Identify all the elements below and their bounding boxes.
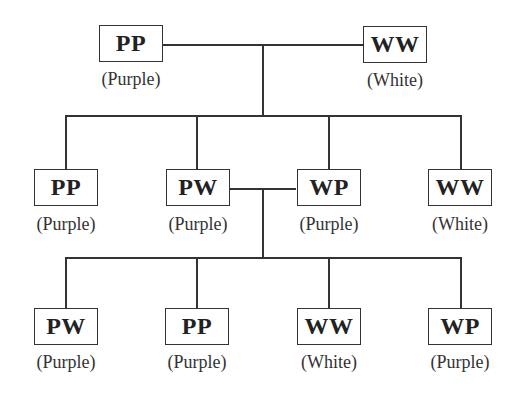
- f2-drop-4: [460, 257, 462, 309]
- f1-drop-4: [460, 115, 462, 169]
- parent-node-1: PP: [99, 25, 163, 62]
- parent-descent-line: [262, 44, 264, 115]
- parent-node-2: WW: [363, 26, 427, 63]
- f1-node-3: WP: [297, 169, 361, 206]
- f2-drop-1: [65, 257, 67, 309]
- f2-node-3: WW: [297, 308, 361, 345]
- f2-phenotype-1: (Purple): [16, 352, 116, 372]
- f1-phenotype-4: (White): [410, 214, 510, 234]
- f1-phenotype-1: (Purple): [16, 214, 116, 234]
- f1-phenotype-3: (Purple): [279, 214, 379, 234]
- f1-drop-2: [196, 115, 198, 169]
- f2-drop-3: [328, 257, 330, 309]
- parent-phenotype-2: (White): [345, 70, 445, 90]
- f2-node-2: PP: [165, 308, 229, 345]
- f1-descent-line: [262, 188, 264, 257]
- f2-node-4: WP: [428, 308, 492, 345]
- f2-drop-2: [196, 257, 198, 309]
- f1-node-4: WW: [428, 169, 492, 206]
- parent-phenotype-1: (Purple): [81, 69, 181, 89]
- f2-phenotype-3: (White): [279, 352, 379, 372]
- f1-drop-3: [328, 115, 330, 169]
- f2-phenotype-4: (Purple): [410, 352, 510, 372]
- f1-phenotype-2: (Purple): [148, 214, 248, 234]
- f1-sibling-bar: [65, 115, 461, 117]
- f1-drop-1: [65, 115, 67, 169]
- f1-node-1: PP: [34, 169, 98, 206]
- f2-phenotype-2: (Purple): [147, 352, 247, 372]
- f2-sibling-bar: [65, 257, 461, 259]
- f2-node-1: PW: [34, 308, 98, 345]
- f1-node-2: PW: [166, 169, 230, 206]
